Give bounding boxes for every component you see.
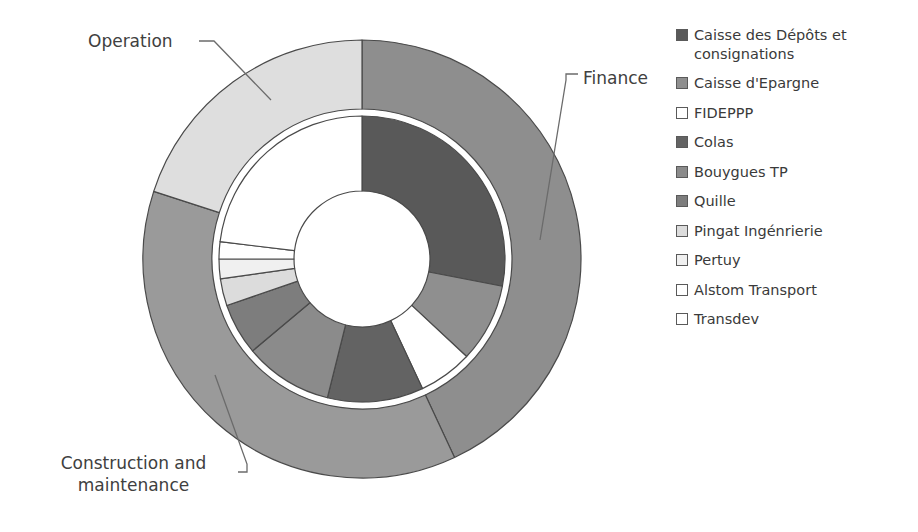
legend-swatch-icon	[676, 136, 688, 148]
callout-finance-label: Finance	[583, 68, 648, 88]
legend-swatch-icon	[676, 29, 688, 41]
legend-item-caisse-des-depots-et-consignations[interactable]: Caisse des Dépôts et consignations	[676, 26, 912, 63]
legend-item-label: FIDEPPP	[694, 104, 753, 123]
legend-swatch-icon	[676, 77, 688, 89]
callout-operation-label: Operation	[88, 31, 173, 51]
legend-item-transdev[interactable]: Transdev	[676, 310, 912, 329]
callout-operation: Operation	[88, 30, 173, 52]
legend-item-label: Pertuy	[694, 251, 741, 270]
legend-item-colas[interactable]: Colas	[676, 133, 912, 152]
legend-item-label: Pingat Ingénrierie	[694, 222, 823, 241]
legend-swatch-icon	[676, 313, 688, 325]
legend-item-alstom-transport[interactable]: Alstom Transport	[676, 281, 912, 300]
legend-item-label: Alstom Transport	[694, 281, 817, 300]
legend-swatch-icon	[676, 166, 688, 178]
legend-swatch-icon	[676, 254, 688, 266]
callout-construction-label-line2: maintenance	[36, 474, 231, 496]
legend-swatch-icon	[676, 195, 688, 207]
chart-figure: Operation Finance Construction and maint…	[0, 0, 918, 532]
legend-item-quille[interactable]: Quille	[676, 192, 912, 211]
chart-legend: Caisse des Dépôts et consignationsCaisse…	[676, 26, 912, 340]
legend-item-fideppp[interactable]: FIDEPPP	[676, 104, 912, 123]
legend-item-bouygues-tp[interactable]: Bouygues TP	[676, 163, 912, 182]
legend-swatch-icon	[676, 225, 688, 237]
legend-item-label: Caisse des Dépôts et consignations	[694, 26, 912, 63]
callout-finance: Finance	[583, 67, 648, 89]
legend-item-label: Transdev	[694, 310, 759, 329]
legend-item-label: Caisse d'Epargne	[694, 74, 819, 93]
legend-item-pertuy[interactable]: Pertuy	[676, 251, 912, 270]
outer-ring-group	[143, 40, 581, 478]
legend-item-pingat-ingenrierie[interactable]: Pingat Ingénrierie	[676, 222, 912, 241]
legend-item-caisse-d-epargne[interactable]: Caisse d'Epargne	[676, 74, 912, 93]
legend-swatch-icon	[676, 284, 688, 296]
legend-swatch-icon	[676, 107, 688, 119]
legend-item-label: Colas	[694, 133, 733, 152]
legend-item-label: Quille	[694, 192, 736, 211]
inner-ring-group	[219, 116, 505, 402]
callout-construction-label-line1: Construction and	[36, 452, 231, 474]
callout-construction: Construction and maintenance	[36, 452, 231, 496]
legend-item-label: Bouygues TP	[694, 163, 788, 182]
